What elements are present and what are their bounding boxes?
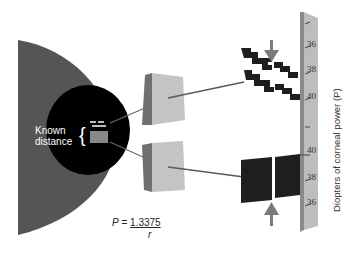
known-distance-line2: distance: [35, 136, 72, 147]
tick-lower-40: 40: [307, 145, 316, 155]
upper-prism-icon: [142, 73, 185, 125]
formula-denominator: r: [148, 229, 151, 240]
lower-prism-icon: [142, 141, 185, 192]
lower-arrow-up-icon: [264, 202, 279, 226]
tick-lower-38: 38: [307, 172, 316, 182]
tick-upper-36: 36: [307, 39, 316, 49]
known-distance-label: Known distance: [35, 125, 72, 147]
known-distance-line1: Known: [35, 125, 72, 136]
lower-mire-icon: [241, 154, 300, 203]
tick-lower-36: 36: [307, 197, 316, 207]
formula-lhs: P =: [112, 217, 130, 228]
keratometer-diagram: Known distance { P = 1.3375 r 36 38 40 4…: [0, 0, 358, 253]
brace-icon: {: [79, 124, 86, 146]
tick-upper-38: 38: [307, 64, 316, 74]
tick-upper-40: 40: [307, 91, 316, 101]
axis-label: Diopters of corneal power (P): [331, 88, 342, 212]
power-formula: P = 1.3375 r: [112, 217, 161, 228]
formula-numerator: 1.3375: [130, 217, 161, 228]
